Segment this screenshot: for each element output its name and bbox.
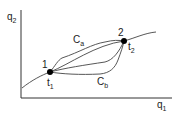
path-ca-label: Ca bbox=[73, 34, 84, 47]
point-2 bbox=[121, 38, 127, 44]
y-axis-label: q2 bbox=[7, 11, 17, 24]
configuration-space-diagram: q2 q1 1 t1 2 t2 Ca Cb bbox=[0, 0, 180, 113]
point-2-time: t2 bbox=[128, 41, 135, 54]
point-1-label: 1 bbox=[42, 59, 48, 70]
path-middle bbox=[50, 41, 124, 72]
point-1 bbox=[47, 69, 53, 75]
path-cb-label: Cb bbox=[97, 76, 108, 89]
point-1-time: t1 bbox=[47, 77, 54, 90]
point-2-label: 2 bbox=[118, 27, 124, 38]
x-axis-label: q1 bbox=[157, 99, 167, 112]
